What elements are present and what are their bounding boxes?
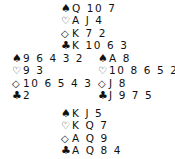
west-hearts: ♡9 3: [12, 64, 92, 76]
north-clubs: ♣K 10 6 3: [61, 39, 128, 51]
north-hearts: ♡A J 4: [61, 14, 128, 26]
south-hearts: ♡K Q 7: [61, 119, 122, 131]
south-clubs: ♣A Q 8 4: [61, 144, 122, 156]
club-icon: ♣: [61, 40, 72, 52]
club-icon: ♣: [61, 145, 72, 157]
north-spades: ♠Q 10 7: [61, 2, 128, 14]
east-clubs: ♣J 9 7 5: [98, 89, 175, 101]
heart-icon: ♡: [61, 120, 72, 132]
east-hearts: ♡10 8 6 5 2: [98, 64, 175, 76]
south-spades: ♠K J 5: [61, 107, 122, 119]
east-hand: ♠A 8 ♡10 8 6 5 2 ◇J 8 ♣J 9 7 5: [98, 52, 175, 101]
east-spades: ♠A 8: [98, 52, 175, 64]
club-icon: ♣: [98, 90, 109, 102]
west-spades: ♠9 6 4 3 2: [12, 52, 92, 64]
west-clubs: ♣2: [12, 89, 92, 101]
north-hand: ♠Q 10 7 ♡A J 4 ◇K 7 2 ♣K 10 6 3: [61, 2, 128, 51]
west-hand: ♠9 6 4 3 2 ♡9 3 ◇10 6 5 4 3 ♣2: [12, 52, 92, 101]
south-hand: ♠K J 5 ♡K Q 7 ◇A Q 9 ♣A Q 8 4: [61, 107, 122, 156]
south-diamonds: ◇A Q 9: [61, 132, 122, 144]
heart-icon: ♡: [12, 65, 23, 77]
club-icon: ♣: [12, 90, 23, 102]
west-diamonds: ◇10 6 5 4 3: [12, 77, 92, 89]
north-diamonds: ◇K 7 2: [61, 27, 128, 39]
east-diamonds: ◇J 8: [98, 77, 175, 89]
heart-icon: ♡: [98, 65, 109, 77]
heart-icon: ♡: [61, 15, 72, 27]
